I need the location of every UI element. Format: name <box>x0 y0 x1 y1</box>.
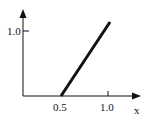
x-axis-arrow-icon <box>132 93 141 100</box>
data-line <box>61 22 110 96</box>
x-axis-label: x <box>134 104 140 116</box>
y-tick-label: 1.0 <box>7 25 21 37</box>
x-tick-label-1: 0.5 <box>53 101 67 113</box>
chart: 1.0 0.5 1.0 x <box>0 0 154 121</box>
y-axis-arrow-icon <box>20 9 27 18</box>
x-tick-label-2: 1.0 <box>100 101 114 113</box>
